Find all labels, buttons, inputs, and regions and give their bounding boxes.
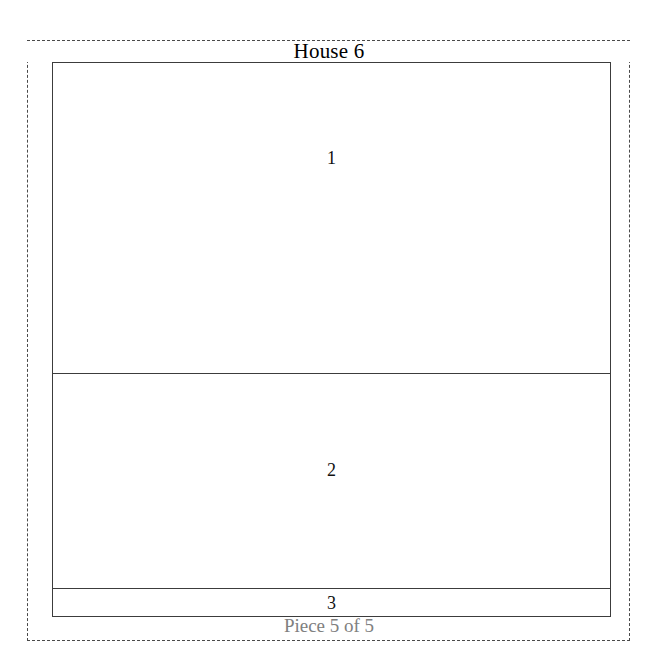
room-region-2: 2 [53, 374, 610, 589]
figure-caption-text: Piece 5 of 5 [278, 615, 380, 637]
room-label-1: 1 [327, 149, 336, 167]
floorplan-outline: 1 2 3 [52, 62, 611, 617]
figure-title-text: House 6 [285, 41, 374, 62]
room-label-3: 3 [327, 594, 336, 612]
room-label-2: 2 [327, 461, 336, 479]
figure-caption: Piece 5 of 5 [0, 615, 658, 637]
figure-title: House 6 [0, 41, 658, 62]
room-region-3: 3 [53, 589, 610, 616]
room-region-1: 1 [53, 63, 610, 374]
